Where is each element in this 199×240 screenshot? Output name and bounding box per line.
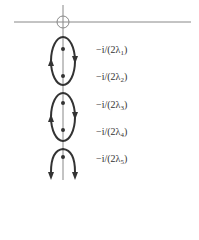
arrow-icon <box>48 58 54 66</box>
pole-label-2: −i/(2λ2) <box>96 72 127 85</box>
pole-dot-2 <box>61 74 65 78</box>
pole-dot-3 <box>61 101 65 105</box>
arrow-icon <box>72 172 78 180</box>
pole-label-1: −i/(2λ1) <box>96 45 127 58</box>
arrow-icon <box>48 172 54 180</box>
arrow-icon <box>72 112 78 120</box>
pole-label-5: −i/(2λ5) <box>96 154 127 167</box>
arrow-icon <box>72 56 78 64</box>
arrow-icon <box>48 114 54 122</box>
pole-label-3: −i/(2λ3) <box>96 100 127 113</box>
pole-dot-1 <box>61 47 65 51</box>
pole-dot-5 <box>61 155 65 159</box>
pole-dot-4 <box>61 128 65 132</box>
pole-label-4: −i/(2λ4) <box>96 127 127 140</box>
